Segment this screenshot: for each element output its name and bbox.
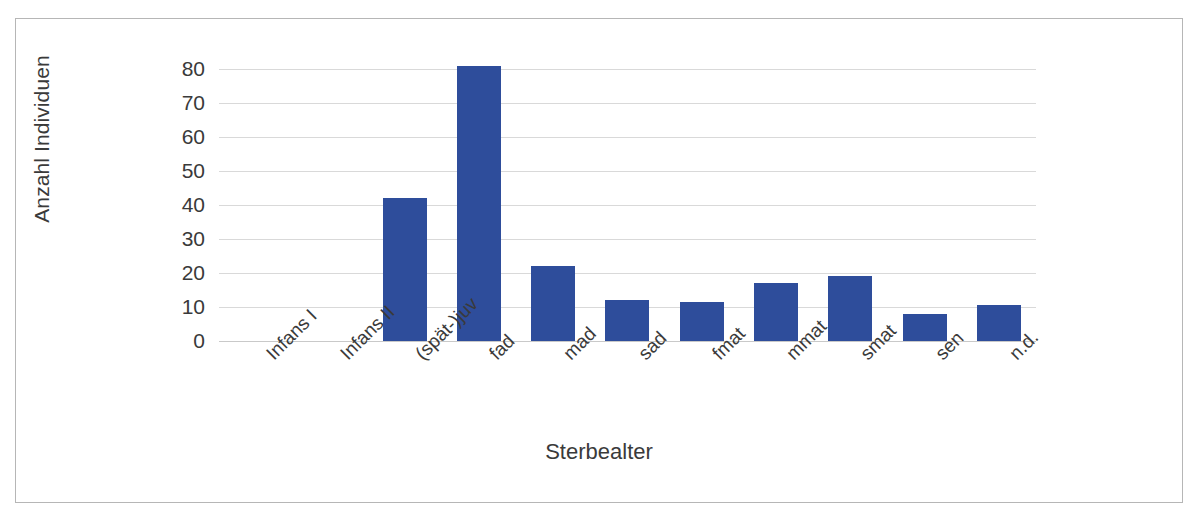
bar-slot bbox=[219, 69, 293, 341]
bar[interactable] bbox=[531, 266, 575, 341]
y-tick-label: 10 bbox=[182, 295, 205, 319]
bar[interactable] bbox=[754, 283, 798, 341]
bar-slot bbox=[813, 69, 887, 341]
y-tick-label: 50 bbox=[182, 159, 205, 183]
bar-slot bbox=[516, 69, 590, 341]
x-axis-title: Sterbealter bbox=[16, 439, 1182, 465]
bar-slot bbox=[293, 69, 367, 341]
bar[interactable] bbox=[903, 314, 947, 341]
y-axis-title: Anzahl Individuen bbox=[30, 29, 54, 249]
y-tick-label: 40 bbox=[182, 193, 205, 217]
bar-slot bbox=[368, 69, 442, 341]
y-tick-label: 70 bbox=[182, 91, 205, 115]
bar-slot bbox=[739, 69, 813, 341]
bar-series bbox=[219, 69, 1036, 341]
bar-slot bbox=[665, 69, 739, 341]
bar[interactable] bbox=[680, 302, 724, 341]
y-tick-label: 20 bbox=[182, 261, 205, 285]
y-tick-label: 60 bbox=[182, 125, 205, 149]
plot-area: 01020304050607080 bbox=[219, 69, 1036, 341]
bar[interactable] bbox=[828, 276, 872, 341]
chart-frame: Anzahl Individuen 01020304050607080 Infa… bbox=[15, 18, 1183, 503]
y-tick-label: 30 bbox=[182, 227, 205, 251]
bar-slot bbox=[590, 69, 664, 341]
bar[interactable] bbox=[977, 305, 1021, 341]
bar-slot bbox=[442, 69, 516, 341]
y-tick-label: 0 bbox=[193, 329, 205, 353]
bar[interactable] bbox=[605, 300, 649, 341]
y-tick-label: 80 bbox=[182, 57, 205, 81]
bar-slot bbox=[887, 69, 961, 341]
bar-slot bbox=[962, 69, 1036, 341]
